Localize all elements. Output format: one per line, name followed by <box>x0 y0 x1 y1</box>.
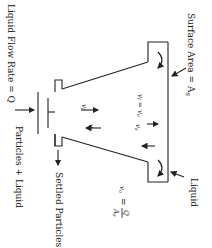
surface-area-label: Surface Area = As <box>184 13 196 96</box>
svg-text:=: = <box>118 198 128 206</box>
flow-arrows <box>15 52 186 177</box>
vs-label: vs <box>87 124 95 131</box>
labels: Liquid Flow Rate = Q Particles + Liquid … <box>6 4 199 248</box>
svg-text:Q: Q <box>122 210 130 216</box>
surface-area-pointer <box>172 68 186 76</box>
particles-liquid-label: Particles + Liquid <box>14 126 24 208</box>
curl-arrow-bottom <box>158 160 162 176</box>
vs2-label: vs <box>134 124 142 131</box>
vl-eq-vo-label: vl = vo <box>136 94 144 117</box>
settled-particles-label: Settled Particles <box>54 172 64 248</box>
liquid-pointer <box>171 172 184 177</box>
svg-text:vo: vo <box>118 186 126 193</box>
sedimentation-tank-diagram: Liquid Flow Rate = Q Particles + Liquid … <box>0 0 212 248</box>
curl-arrow-top <box>158 52 162 68</box>
svg-text:As: As <box>112 208 120 217</box>
vo-formula: vo = Q As <box>112 186 130 218</box>
liquid-label: Liquid <box>189 178 199 207</box>
vl-label: vl <box>80 104 88 110</box>
liquid-flow-rate-label: Liquid Flow Rate = Q <box>6 4 16 103</box>
